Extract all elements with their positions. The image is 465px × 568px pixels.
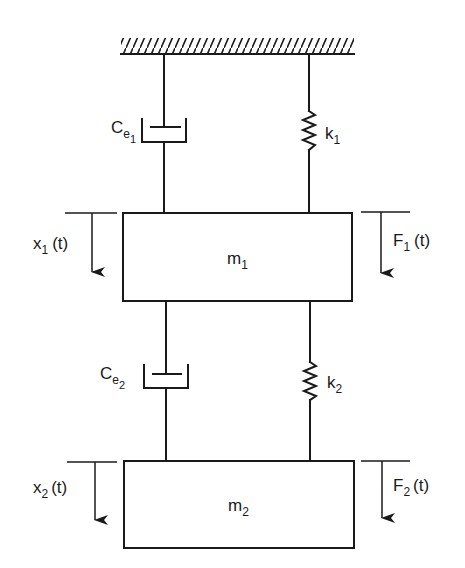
displacement-x1-arrow [65, 213, 117, 272]
label-k1: k1 [325, 124, 341, 147]
label-x1: x1(t) [33, 234, 68, 257]
label-ce1: Ce1 [111, 118, 136, 145]
label-ce2: Ce2 [100, 364, 125, 391]
label-f2: F2(t) [393, 476, 429, 499]
displacement-x2-arrow [67, 462, 117, 520]
damper-ce1 [142, 54, 186, 213]
label-m1: m1 [227, 249, 248, 272]
label-f1: F1(t) [393, 231, 430, 254]
label-k2: k2 [327, 373, 343, 396]
spring-k2 [304, 301, 316, 461]
label-x2: x2(t) [33, 478, 67, 501]
label-m2: m2 [228, 496, 249, 519]
spring-k1 [303, 54, 315, 213]
ground-hatching [121, 38, 354, 53]
mass-spring-damper-diagram: Ce1 k1 m1 x1(t) F1(t) Ce2 [0, 0, 465, 568]
damper-ce2 [144, 301, 188, 461]
ground-support [121, 38, 354, 54]
